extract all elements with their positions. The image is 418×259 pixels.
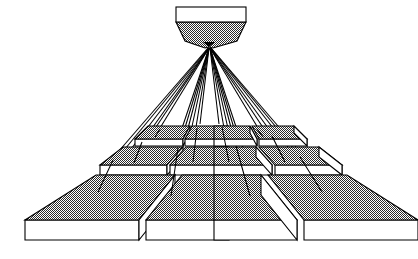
slab-row-near — [25, 175, 418, 240]
perspective-hopper-diagram — [0, 0, 418, 259]
hopper-body — [176, 7, 246, 22]
slab-front-face — [259, 139, 307, 146]
hopper-group — [176, 7, 246, 48]
slab-front-face — [304, 220, 418, 240]
slab-front-face — [25, 220, 139, 240]
slab-row-middle — [100, 147, 342, 175]
figure-root: Central hopper distributing material to … — [0, 0, 418, 259]
slab-r1c3 — [214, 126, 257, 146]
slab-front-face — [214, 139, 257, 146]
slab-row-far — [135, 126, 307, 146]
